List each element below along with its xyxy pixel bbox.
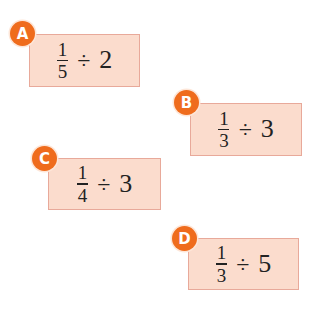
divide-operator: ÷ [239, 117, 252, 141]
divide-operator: ÷ [77, 48, 90, 72]
problem-card-b: 1 3 ÷ 3 [190, 103, 302, 156]
divide-operator: ÷ [97, 172, 110, 196]
denominator: 5 [57, 63, 69, 80]
label-badge-c: C [32, 146, 57, 171]
divisor: 5 [258, 251, 271, 277]
label-badge-b: B [174, 90, 199, 115]
fraction: 1 4 [77, 164, 89, 203]
denominator: 4 [77, 187, 89, 204]
fraction: 1 3 [216, 244, 228, 283]
denominator: 3 [218, 132, 230, 149]
numerator: 1 [77, 164, 89, 181]
problem-card-d: 1 3 ÷ 5 [188, 238, 299, 290]
numerator: 1 [218, 110, 230, 127]
divide-operator: ÷ [236, 252, 249, 276]
expression: 1 5 ÷ 2 [57, 41, 113, 80]
denominator: 3 [216, 267, 228, 284]
fraction: 1 3 [218, 110, 230, 149]
expression: 1 3 ÷ 5 [216, 244, 272, 283]
expression: 1 4 ÷ 3 [77, 164, 133, 203]
divisor: 3 [261, 116, 274, 142]
problem-card-a: 1 5 ÷ 2 [29, 34, 140, 87]
divisor: 2 [99, 47, 112, 73]
label-badge-d: D [172, 226, 197, 251]
numerator: 1 [216, 244, 228, 261]
divisor: 3 [119, 171, 132, 197]
problem-card-c: 1 4 ÷ 3 [48, 158, 161, 210]
fraction: 1 5 [57, 41, 69, 80]
numerator: 1 [57, 41, 69, 58]
expression: 1 3 ÷ 3 [218, 110, 274, 149]
label-badge-a: A [10, 21, 35, 46]
